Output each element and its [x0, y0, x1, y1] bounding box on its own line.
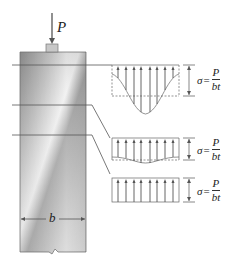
load-label: P [57, 20, 66, 35]
equals-sign: = [203, 144, 209, 156]
bearing-plate [46, 44, 58, 52]
equals-sign: = [203, 74, 209, 86]
denominator: bt [212, 151, 221, 162]
equals-sign: = [203, 185, 209, 197]
load-arrow-icon [49, 13, 55, 44]
denominator: bt [212, 192, 221, 203]
stress-formula-middle: σ = P bt [197, 137, 220, 162]
stress-diagram-middle [112, 138, 195, 163]
stress-formula-top: σ = P bt [197, 67, 220, 92]
diagram-canvas [0, 0, 228, 261]
numerator: P [212, 67, 221, 78]
numerator: P [212, 137, 221, 148]
sigma-symbol: σ [197, 185, 202, 197]
stress-diagram-top [112, 65, 195, 114]
stress-formula-bottom: σ = P bt [197, 178, 220, 203]
stress-diagram-bottom [112, 178, 195, 202]
denominator: bt [212, 81, 221, 92]
numerator: P [212, 178, 221, 189]
sigma-symbol: σ [197, 74, 202, 86]
width-label: b [49, 211, 56, 224]
sigma-symbol: σ [197, 144, 202, 156]
